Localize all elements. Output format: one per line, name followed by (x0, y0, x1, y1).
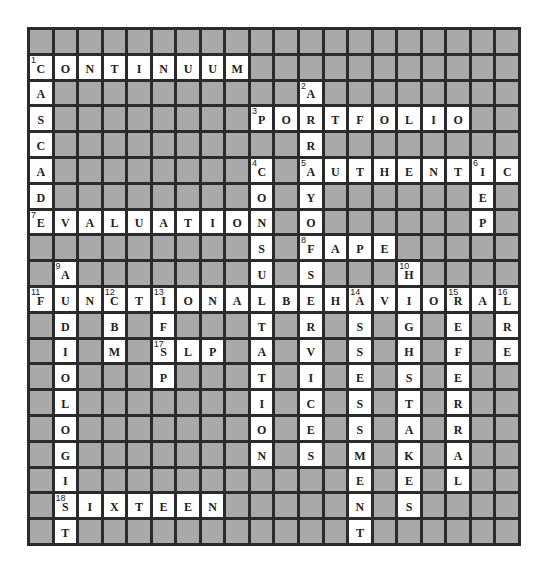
grid-cell-letter[interactable]: R (300, 133, 322, 156)
grid-cell-letter[interactable]: A (472, 288, 494, 311)
grid-cell-letter[interactable]: M (226, 56, 248, 79)
grid-cell-letter[interactable]: T (55, 520, 77, 543)
grid-cell-letter[interactable]: M (349, 443, 371, 466)
grid-cell-letter[interactable]: S (398, 494, 420, 517)
grid-cell-letter[interactable]: 1C (30, 56, 52, 79)
grid-cell-letter[interactable]: O (447, 107, 469, 130)
grid-cell-letter[interactable]: C (496, 159, 518, 182)
grid-cell-letter[interactable]: E (472, 185, 494, 208)
grid-cell-letter[interactable]: T (447, 159, 469, 182)
grid-cell-letter[interactable]: I (79, 494, 101, 517)
grid-cell-letter[interactable]: N (153, 56, 175, 79)
grid-cell-letter[interactable]: A (30, 159, 52, 182)
grid-cell-letter[interactable]: E (496, 340, 518, 363)
grid-cell-letter[interactable]: 5A (300, 159, 322, 182)
grid-cell-letter[interactable]: T (398, 391, 420, 414)
grid-cell-letter[interactable]: N (251, 211, 273, 234)
grid-cell-letter[interactable]: H (398, 340, 420, 363)
grid-cell-letter[interactable]: U (251, 262, 273, 285)
grid-cell-letter[interactable]: R (447, 391, 469, 414)
grid-cell-letter[interactable]: I (202, 211, 224, 234)
grid-cell-letter[interactable]: T (349, 159, 371, 182)
grid-cell-letter[interactable]: R (300, 314, 322, 337)
grid-cell-letter[interactable]: U (202, 56, 224, 79)
grid-cell-letter[interactable]: A (447, 443, 469, 466)
grid-cell-letter[interactable]: T (128, 288, 150, 311)
grid-cell-letter[interactable]: O (55, 56, 77, 79)
grid-cell-letter[interactable]: S (30, 107, 52, 130)
grid-cell-letter[interactable]: H (374, 159, 396, 182)
grid-cell-letter[interactable]: L (104, 211, 126, 234)
grid-cell-letter[interactable]: B (275, 288, 297, 311)
grid-cell-letter[interactable]: T (128, 494, 150, 517)
grid-cell-letter[interactable]: I (55, 340, 77, 363)
grid-cell-letter[interactable]: 12C (104, 288, 126, 311)
grid-cell-letter[interactable]: E (398, 469, 420, 492)
grid-cell-letter[interactable]: 13I (153, 288, 175, 311)
grid-cell-letter[interactable]: O (275, 107, 297, 130)
grid-cell-letter[interactable]: N (79, 288, 101, 311)
grid-cell-letter[interactable]: G (398, 314, 420, 337)
grid-cell-letter[interactable]: F (349, 107, 371, 130)
grid-cell-letter[interactable]: L (398, 107, 420, 130)
grid-cell-letter[interactable]: N (79, 56, 101, 79)
grid-cell-letter[interactable]: M (104, 340, 126, 363)
grid-cell-letter[interactable]: T (349, 520, 371, 543)
grid-cell-letter[interactable]: U (325, 159, 347, 182)
grid-cell-letter[interactable]: E (447, 365, 469, 388)
grid-cell-letter[interactable]: O (251, 185, 273, 208)
grid-cell-letter[interactable]: I (423, 107, 445, 130)
grid-cell-letter[interactable]: Y (300, 185, 322, 208)
grid-cell-letter[interactable]: P (349, 236, 371, 259)
grid-cell-letter[interactable]: U (55, 288, 77, 311)
grid-cell-letter[interactable]: G (55, 443, 77, 466)
grid-cell-letter[interactable]: T (177, 211, 199, 234)
grid-cell-letter[interactable]: E (398, 159, 420, 182)
grid-cell-letter[interactable]: N (251, 443, 273, 466)
grid-cell-letter[interactable]: D (30, 185, 52, 208)
grid-cell-letter[interactable]: N (202, 494, 224, 517)
grid-cell-letter[interactable]: I (128, 56, 150, 79)
grid-cell-letter[interactable]: O (423, 288, 445, 311)
grid-cell-letter[interactable]: V (55, 211, 77, 234)
grid-cell-letter[interactable]: A (79, 211, 101, 234)
grid-cell-letter[interactable]: I (300, 365, 322, 388)
grid-cell-letter[interactable]: E (374, 236, 396, 259)
grid-cell-letter[interactable]: 7E (30, 211, 52, 234)
grid-cell-letter[interactable]: 11F (30, 288, 52, 311)
grid-cell-letter[interactable]: 3P (251, 107, 273, 130)
grid-cell-letter[interactable]: A (398, 417, 420, 440)
grid-cell-letter[interactable]: 15R (447, 288, 469, 311)
grid-cell-letter[interactable]: O (251, 417, 273, 440)
grid-cell-letter[interactable]: O (226, 211, 248, 234)
grid-cell-letter[interactable]: E (349, 365, 371, 388)
grid-cell-letter[interactable]: O (55, 417, 77, 440)
grid-cell-letter[interactable]: O (55, 365, 77, 388)
grid-cell-letter[interactable]: R (496, 314, 518, 337)
grid-cell-letter[interactable]: I (251, 391, 273, 414)
grid-cell-letter[interactable]: P (472, 211, 494, 234)
grid-cell-letter[interactable]: T (251, 365, 273, 388)
grid-cell-letter[interactable]: B (104, 314, 126, 337)
grid-cell-letter[interactable]: A (153, 211, 175, 234)
grid-cell-letter[interactable]: F (153, 314, 175, 337)
grid-cell-letter[interactable]: 14A (349, 288, 371, 311)
grid-cell-letter[interactable]: R (447, 417, 469, 440)
grid-cell-letter[interactable]: 8F (300, 236, 322, 259)
grid-cell-letter[interactable]: 10H (398, 262, 420, 285)
grid-cell-letter[interactable]: 16L (496, 288, 518, 311)
grid-cell-letter[interactable]: C (300, 391, 322, 414)
grid-cell-letter[interactable]: I (55, 469, 77, 492)
grid-cell-letter[interactable]: S (398, 365, 420, 388)
grid-cell-letter[interactable]: N (349, 494, 371, 517)
grid-cell-letter[interactable]: L (447, 469, 469, 492)
grid-cell-letter[interactable]: C (30, 133, 52, 156)
grid-cell-letter[interactable]: S (349, 391, 371, 414)
grid-cell-letter[interactable]: P (202, 340, 224, 363)
grid-cell-letter[interactable]: 18S (55, 494, 77, 517)
grid-cell-letter[interactable]: T (251, 314, 273, 337)
grid-cell-letter[interactable]: L (177, 340, 199, 363)
grid-cell-letter[interactable]: A (226, 288, 248, 311)
grid-cell-letter[interactable]: 9A (55, 262, 77, 285)
grid-cell-letter[interactable]: I (398, 288, 420, 311)
